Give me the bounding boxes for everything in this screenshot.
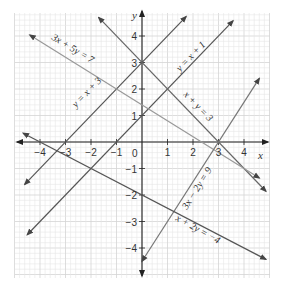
- x-tick-label: 4: [241, 147, 247, 158]
- y-tick-label: −4: [126, 243, 138, 254]
- x-tick-label: 3: [216, 147, 222, 158]
- label-y-equals-x-plus-1: y = x + 1: [173, 39, 208, 74]
- x-tick-label: −3: [60, 147, 72, 158]
- graph-svg: −4−3−2−11234−4−3−2−11234 x y 0 y = x + 3…: [0, 0, 283, 290]
- y-tick-label: 3: [131, 58, 137, 69]
- line-x-y-3: [99, 17, 266, 191]
- x-tick-label: −4: [34, 147, 46, 158]
- origin-label: 0: [132, 148, 138, 159]
- y-tick-label: 4: [131, 31, 137, 42]
- x-tick-label: −2: [85, 147, 97, 158]
- x-tick-label: 1: [165, 147, 171, 158]
- y-tick-label: −1: [126, 164, 138, 175]
- y-tick-label: −2: [126, 190, 138, 201]
- line-y-x-3: [25, 17, 186, 185]
- y-axis-label: y: [131, 9, 137, 21]
- lines: [23, 17, 266, 262]
- coordinate-graph: −4−3−2−11234−4−3−2−11234 x y 0 y = x + 3…: [0, 0, 283, 290]
- x-axis-label: x: [257, 149, 263, 161]
- x-tick-label: 2: [190, 147, 196, 158]
- y-tick-label: 2: [131, 84, 137, 95]
- label-x-plus-2y-equals-minus-4: x + 2y = −4: [173, 212, 222, 246]
- x-tick-label: −1: [111, 147, 123, 158]
- y-tick-label: −3: [126, 217, 138, 228]
- y-tick-label: 1: [131, 111, 137, 122]
